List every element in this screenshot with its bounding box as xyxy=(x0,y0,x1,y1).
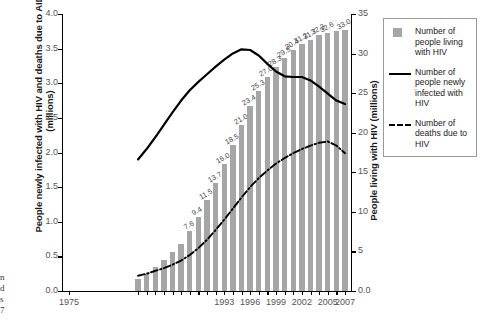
axis-tick xyxy=(147,291,148,295)
legend-item-people-living: Number of people living with HIV xyxy=(389,26,471,58)
line-series xyxy=(62,14,352,291)
axis-tick xyxy=(242,291,243,295)
axis-tick xyxy=(190,291,191,295)
axis-tick xyxy=(352,212,356,213)
axis-tick xyxy=(259,291,260,295)
axis-tick xyxy=(250,291,251,295)
right-axis-tick-label: 15 xyxy=(358,166,398,176)
legend-item-deaths: Number of deaths due to HIV xyxy=(389,118,471,150)
legend-dash-dot-line-icon xyxy=(389,118,411,131)
legend-label: Number of deaths due to HIV xyxy=(415,118,471,150)
left-axis-tick-label: 1.0 xyxy=(18,216,58,226)
axis-tick xyxy=(276,291,277,295)
legend-label: Number of people newly infected with HIV xyxy=(415,67,471,109)
axis-tick xyxy=(69,291,70,295)
right-axis-tick-label: 5 xyxy=(358,245,398,255)
axis-tick xyxy=(138,291,139,295)
left-axis-tick-label: 1.5 xyxy=(18,181,58,191)
axis-tick xyxy=(224,291,225,295)
left-axis-tick-label: 3.5 xyxy=(18,43,58,53)
line-deaths xyxy=(138,141,345,275)
chart-page: People newly infected with HIV and death… xyxy=(0,0,482,327)
legend-solid-line-icon xyxy=(389,67,411,80)
margin-side-text: nds7 xyxy=(0,272,18,316)
axis-tick xyxy=(181,291,182,295)
legend-label: Number of people living with HIV xyxy=(415,26,471,58)
axis-tick xyxy=(216,291,217,295)
axis-tick xyxy=(173,291,174,295)
left-axis-tick-label: 2.0 xyxy=(18,147,58,157)
axis-tick xyxy=(233,291,234,295)
axis-tick xyxy=(352,133,356,134)
left-axis-tick-label: 2.5 xyxy=(18,112,58,122)
axis-tick xyxy=(352,93,356,94)
axis-tick xyxy=(207,291,208,295)
axis-tick xyxy=(267,291,268,295)
left-axis-tick-label: 3.0 xyxy=(18,77,58,87)
axis-tick xyxy=(352,291,356,292)
right-axis-tick-label: 0.0 xyxy=(358,285,398,295)
axis-tick xyxy=(328,291,329,295)
line-newly-infected xyxy=(138,49,345,159)
axis-tick xyxy=(345,291,346,295)
legend-item-newly-infected: Number of people newly infected with HIV xyxy=(389,67,471,109)
x-axis-tick-label: 2007 xyxy=(325,297,365,307)
axis-tick xyxy=(155,291,156,295)
axis-tick xyxy=(352,251,356,252)
axis-tick xyxy=(319,291,320,295)
axis-tick xyxy=(352,14,356,15)
axis-tick xyxy=(311,291,312,295)
plot-area: 0.00.51.01.52.02.53.03.54.0 0.0510152025… xyxy=(62,14,352,292)
right-axis-title: People living with HIV (millions) xyxy=(368,26,379,276)
axis-tick xyxy=(58,291,62,292)
axis-tick xyxy=(198,291,199,295)
left-axis-tick-label: 0.5 xyxy=(18,250,58,260)
chart-legend: Number of people living with HIV Number … xyxy=(383,18,477,157)
left-axis-tick-label: 0.0 xyxy=(18,285,58,295)
axis-tick xyxy=(293,291,294,295)
axis-tick xyxy=(285,291,286,295)
right-axis-tick-label: 35 xyxy=(358,8,398,18)
axis-tick xyxy=(302,291,303,295)
left-axis-tick-label: 4.0 xyxy=(18,8,58,18)
axis-tick xyxy=(352,54,356,55)
axis-tick xyxy=(164,291,165,295)
x-axis-tick-label: 1975 xyxy=(49,297,89,307)
right-axis-tick-label: 10 xyxy=(358,206,398,216)
axis-tick xyxy=(336,291,337,295)
axis-tick xyxy=(352,172,356,173)
legend-swatch-icon xyxy=(389,26,411,39)
